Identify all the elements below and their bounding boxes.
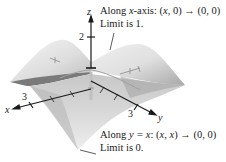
leader-line-x-axis	[110, 33, 114, 50]
annotation-x-axis-line1: Along x-axis: (x, 0) → (0, 0)	[100, 5, 220, 17]
z-axis-label: z	[87, 6, 91, 17]
y-axis-label: y	[158, 112, 162, 123]
x-axis-label: x	[5, 104, 9, 115]
y-tick-label: 3	[128, 108, 133, 119]
annotation-diagonal-line1: Along y = x: (x, x) → (0, 0)	[100, 129, 216, 141]
z-tick-label: 2	[79, 31, 84, 42]
leader-line-diagonal	[80, 150, 96, 154]
annotation-x-axis-limit: Limit is 1.	[100, 18, 143, 30]
x-arrow-icon	[13, 105, 20, 109]
x-tick-label: 3	[22, 91, 27, 102]
surface-figure: z 2 x 3 y 3 Along x-axis: (x, 0) → (0, 0…	[0, 0, 226, 162]
y-arrow-icon	[149, 110, 156, 115]
annotation-diagonal-limit: Limit is 0.	[100, 142, 143, 154]
